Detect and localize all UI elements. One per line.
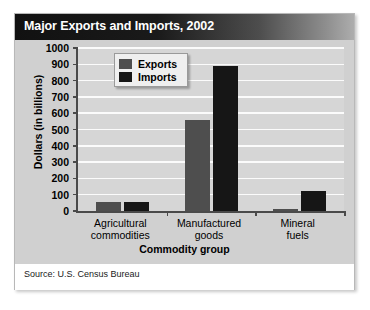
y-tick-label: 100 [23,189,69,200]
source-note: Source: U.S. Census Bureau [24,269,140,279]
y-tick-label: 600 [23,108,69,119]
gridline [78,112,344,114]
y-tick-label: 400 [23,141,69,152]
x-category-label-0: Agriculturalcommodities [76,217,165,241]
category-separator [167,211,169,216]
y-tick-mark [73,80,78,82]
legend-swatch-imports-icon [119,72,132,82]
bar-exports-2 [273,209,298,211]
legend-label-exports: Exports [138,58,177,70]
y-tick-label: 0 [23,206,69,217]
legend-item: Exports [119,57,177,70]
bar-imports-1 [213,66,238,211]
bar-imports-0 [124,202,149,211]
y-tick-label: 200 [23,173,69,184]
page-title: Major Exports and Imports, 2002 [24,19,214,33]
y-tick-mark [73,96,78,98]
legend-swatch-exports-icon [119,59,132,69]
gridline [78,178,344,180]
gridline [78,129,344,131]
y-tick-label: 500 [23,124,69,135]
y-tick-mark [73,161,78,163]
bar-imports-2 [301,191,326,211]
category-separator [344,211,346,216]
y-tick-mark [73,145,78,147]
y-tick-label: 300 [23,157,69,168]
y-tick-label: 1000 [23,43,69,54]
source-strip: Source: U.S. Census Bureau [15,264,354,290]
y-tick-label: 900 [23,59,69,70]
bar-exports-0 [96,202,121,211]
bar-exports-1 [185,120,210,211]
y-tick-label: 700 [23,92,69,103]
legend-label-imports: Imports [138,71,177,83]
category-separator [255,211,257,216]
y-tick-mark [73,47,78,49]
gridline [78,47,344,49]
gridline [78,96,344,98]
chart-legend: Exports Imports [114,53,188,87]
x-category-label-1: Manufacturedgoods [165,217,254,241]
y-tick-mark [73,194,78,196]
x-category-label-2: Mineralfuels [253,217,342,241]
y-tick-mark [73,129,78,131]
gridline [78,145,344,147]
y-tick-mark [73,210,78,212]
y-tick-mark [73,178,78,180]
y-tick-mark [73,112,78,114]
y-tick-label: 800 [23,75,69,86]
legend-item: Imports [119,70,177,83]
x-axis-title: Commodity group [15,243,354,255]
chart-title-bar: Major Exports and Imports, 2002 [15,14,354,40]
y-tick-mark [73,64,78,66]
gridline [78,161,344,163]
chart-body: Dollars (in billions) 010020030040050060… [15,40,354,264]
chart-card: Major Exports and Imports, 2002 Dollars … [14,13,355,290]
